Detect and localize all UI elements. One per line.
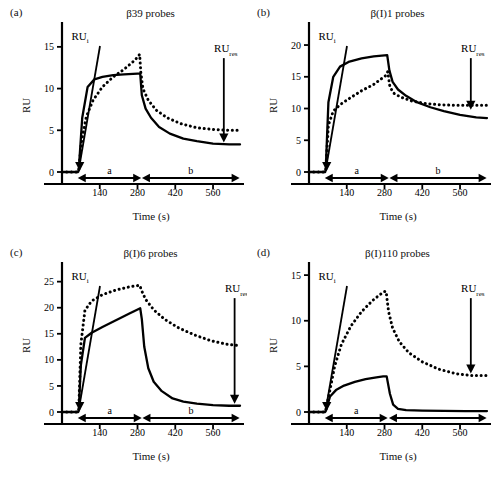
annotation-label-initial-c: RUi <box>71 270 88 285</box>
x-tick-label-c-2: 420 <box>168 427 183 438</box>
y-tick-label-a-2: 10 <box>44 83 54 94</box>
annotation-label-residual-c: RUres <box>225 282 247 297</box>
y-axis-title-c: RU <box>20 338 32 353</box>
ru-initial-text-d: RU <box>318 270 333 282</box>
phase-arrow-left-b-0 <box>325 174 333 182</box>
annotation-arrow-initial-b <box>327 46 347 164</box>
y-tick-label-c-3: 15 <box>44 328 54 339</box>
annotation-label-residual-d: RUres <box>461 282 485 297</box>
x-tick-label-d-1: 280 <box>377 427 392 438</box>
ru-initial-sub-b: i <box>334 37 336 45</box>
ru-initial-text-a: RU <box>71 30 86 42</box>
series-solid-a <box>62 74 240 172</box>
plot-area-a: 051015140280420560abRUiRUres <box>0 0 247 239</box>
phase-label-b-1: b <box>436 165 441 176</box>
y-tick-label-c-0: 0 <box>49 407 54 418</box>
phase-arrow-left-b-1 <box>389 174 397 182</box>
y-tick-label-c-1: 5 <box>49 381 54 392</box>
y-tick-label-c-2: 10 <box>44 354 54 365</box>
x-axis-title-b: Time (s) <box>309 210 487 222</box>
y-tick-label-b-2: 10 <box>291 103 301 114</box>
ru-residual-sub-a: res <box>229 50 237 58</box>
y-tick-label-a-1: 5 <box>49 125 54 136</box>
y-tick-label-d-3: 15 <box>291 270 301 281</box>
ru-residual-text-d: RU <box>461 282 476 294</box>
x-tick-label-a-1: 280 <box>130 187 145 198</box>
y-tick-label-d-1: 5 <box>296 361 301 372</box>
ru-initial-sub-d: i <box>334 277 336 285</box>
x-tick-label-a-3: 560 <box>206 187 221 198</box>
panel-a: (a)β39 probes051015140280420560abRUiRUre… <box>0 0 247 239</box>
plot-area-d: 051015140280420560aRUiRUres <box>247 240 494 479</box>
phase-arrow-right-c-0 <box>134 414 142 422</box>
annotation-arrowhead-residual-d <box>466 365 475 374</box>
y-tick-label-b-1: 5 <box>296 135 301 146</box>
annotation-label-initial-a: RUi <box>71 30 88 45</box>
phase-arrow-right-c-1 <box>232 414 240 422</box>
phase-arrow-right-a-0 <box>133 174 141 182</box>
phase-label-d-0: a <box>354 405 359 416</box>
ru-residual-text-c: RU <box>225 282 240 294</box>
x-tick-label-b-2: 420 <box>415 187 430 198</box>
y-axis-title-d: RU <box>267 338 279 353</box>
annotation-label-residual-b: RUres <box>461 42 485 57</box>
y-tick-label-c-5: 25 <box>44 276 54 287</box>
y-tick-label-b-3: 15 <box>291 71 301 82</box>
phase-arrow-left-d-1 <box>389 414 397 422</box>
y-tick-label-b-4: 20 <box>291 40 301 51</box>
ru-initial-text-b: RU <box>318 30 333 42</box>
x-tick-label-d-2: 420 <box>415 427 430 438</box>
x-tick-label-c-3: 560 <box>206 427 221 438</box>
phase-arrow-right-d-1 <box>479 414 487 422</box>
y-axis-title-a: RU <box>20 98 32 113</box>
phase-arrow-right-b-0 <box>381 174 389 182</box>
ru-residual-sub-d: res <box>476 290 484 298</box>
x-axis-title-a: Time (s) <box>62 210 240 222</box>
ru-initial-text-c: RU <box>71 270 86 282</box>
series-dotted-b <box>309 72 487 172</box>
y-tick-label-c-4: 20 <box>44 302 54 313</box>
phase-arrow-right-b-1 <box>479 174 487 182</box>
x-tick-label-d-3: 560 <box>453 427 468 438</box>
x-axis-title-d: Time (s) <box>309 450 487 462</box>
x-tick-label-b-3: 560 <box>453 187 468 198</box>
panel-d: (d)β(I)110 probes051015140280420560aRUiR… <box>247 240 494 479</box>
annotation-arrowhead-initial-d <box>322 402 331 411</box>
phase-label-b-0: a <box>355 165 360 176</box>
series-solid-c <box>62 308 240 412</box>
x-tick-label-b-0: 140 <box>339 187 354 198</box>
series-solid-d <box>309 376 487 412</box>
y-tick-label-d-0: 0 <box>296 407 301 418</box>
annotation-label-residual-a: RUres <box>214 42 238 57</box>
phase-arrow-left-a-1 <box>142 174 150 182</box>
annotation-arrowhead-initial-b <box>322 162 331 171</box>
x-tick-label-a-2: 420 <box>168 187 183 198</box>
ru-residual-sub-c: res <box>240 290 247 298</box>
x-tick-label-c-0: 140 <box>92 427 107 438</box>
phase-label-a-1: b <box>188 165 193 176</box>
phase-arrow-left-c-0 <box>78 414 86 422</box>
phase-label-c-0: a <box>108 405 113 416</box>
phase-label-c-1: b <box>189 405 194 416</box>
ru-initial-sub-a: i <box>87 37 89 45</box>
x-tick-label-c-1: 280 <box>130 427 145 438</box>
phase-arrow-left-d-0 <box>325 414 333 422</box>
annotation-arrowhead-residual-c <box>230 395 239 404</box>
plot-area-b: 05101520140280420560abRUiRUres <box>247 0 494 239</box>
y-tick-label-a-3: 15 <box>44 41 54 52</box>
phase-arrow-left-a-0 <box>78 174 86 182</box>
phase-arrow-left-c-1 <box>142 414 150 422</box>
annotation-arrowhead-residual-a <box>219 133 228 142</box>
x-tick-label-b-1: 280 <box>377 187 392 198</box>
x-tick-label-a-0: 140 <box>92 187 107 198</box>
phase-arrow-right-a-1 <box>232 174 240 182</box>
plot-area-c: 0510152025140280420560abRUiRUres <box>0 240 247 479</box>
ru-initial-sub-c: i <box>87 277 89 285</box>
annotation-label-initial-b: RUi <box>318 30 335 45</box>
y-tick-label-b-0: 0 <box>296 167 301 178</box>
y-tick-label-d-2: 10 <box>291 315 301 326</box>
ru-residual-text-b: RU <box>461 42 476 54</box>
panel-b: (b)β(I)1 probes05101520140280420560abRUi… <box>247 0 494 239</box>
sensorgram-figure: (a)β39 probes051015140280420560abRUiRUre… <box>0 0 494 479</box>
annotation-arrow-initial-a <box>80 46 100 164</box>
